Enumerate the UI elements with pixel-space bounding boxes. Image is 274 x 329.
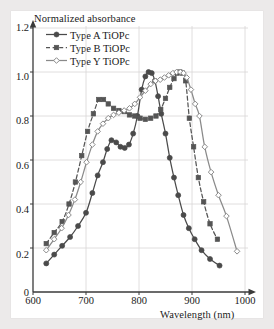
legend-swatch-type-a (46, 32, 67, 37)
legend-marks (46, 32, 67, 63)
data-series (43, 69, 239, 268)
axes (30, 20, 256, 295)
legend-swatch-type-b (46, 45, 67, 49)
chart-svg (0, 0, 274, 329)
legend-swatch-type-y (46, 58, 67, 64)
figure-container: Normalized absorbance Wavelength (nm) 1.… (0, 0, 274, 329)
series-type-a (44, 70, 222, 269)
gridlines (33, 26, 248, 292)
